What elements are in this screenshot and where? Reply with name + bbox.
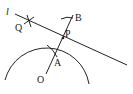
construction-cross-Q-2 [24,17,34,24]
geometry-diagram: l Q B P A O [0,0,133,94]
point-P [62,37,65,40]
label-Q: Q [15,22,23,33]
label-A: A [54,57,62,68]
label-O: O [37,74,44,85]
label-line-l: l [6,6,9,17]
label-P: P [65,28,71,39]
tangent-line-l [15,14,127,65]
label-B: B [75,12,82,23]
construction-arc-A [47,45,57,57]
circle-arc [5,48,89,84]
